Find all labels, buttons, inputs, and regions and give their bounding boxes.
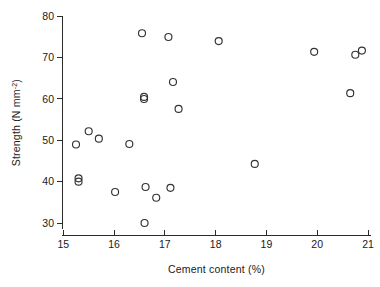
x-axis-tick-label: 15 xyxy=(57,238,69,250)
y-axis-tick-label: 80 xyxy=(42,10,54,22)
y-axis: 304050607080 xyxy=(42,10,62,229)
data-point-marker xyxy=(95,135,102,142)
y-axis-tick-label: 50 xyxy=(42,134,54,146)
scatter-plot-figure: 304050607080 15161718192021 Cement conte… xyxy=(0,0,380,287)
x-axis-tick-label: 19 xyxy=(261,238,273,250)
data-point-marker xyxy=(358,47,365,54)
data-point-marker xyxy=(73,141,80,148)
x-axis-tick-label: 20 xyxy=(311,238,323,250)
data-point-marker xyxy=(85,128,92,135)
x-axis-tick-label: 21 xyxy=(362,238,374,250)
x-axis-tick-label: 16 xyxy=(108,238,120,250)
data-point-marker xyxy=(347,90,354,97)
data-point-marker xyxy=(141,220,148,227)
data-point-marker xyxy=(215,38,222,45)
y-axis-title-main: Strength (N mm xyxy=(10,89,22,166)
data-point-marker xyxy=(169,79,176,86)
y-axis-tick-label: 40 xyxy=(42,175,54,187)
y-axis-tick-label: 60 xyxy=(42,93,54,105)
y-axis-tick-label: 30 xyxy=(42,217,54,229)
data-point-marker xyxy=(165,33,172,40)
data-point-marker xyxy=(311,48,318,55)
x-axis-title: Cement content (%) xyxy=(168,263,265,275)
data-point-marker xyxy=(352,51,359,58)
data-point-marker xyxy=(126,141,133,148)
y-axis-title-superscript: -2 xyxy=(11,83,18,90)
x-axis: 15161718192021 xyxy=(57,230,374,250)
data-point-marker xyxy=(153,194,160,201)
data-point-marker xyxy=(139,30,146,37)
y-axis-title: Strength (N mm-2) xyxy=(10,79,22,166)
data-point-marker xyxy=(112,189,119,196)
x-axis-tick-label: 18 xyxy=(210,238,222,250)
data-point-marker xyxy=(175,105,182,112)
data-point-marker xyxy=(167,184,174,191)
y-axis-title-tail: ) xyxy=(10,79,22,83)
plot-canvas: 304050607080 15161718192021 Cement conte… xyxy=(0,0,380,287)
x-axis-tick-label: 17 xyxy=(159,238,171,250)
data-point-marker xyxy=(251,160,258,167)
data-point-marker xyxy=(142,184,149,191)
data-point-layer xyxy=(73,30,366,227)
y-axis-tick-label: 70 xyxy=(42,51,54,63)
